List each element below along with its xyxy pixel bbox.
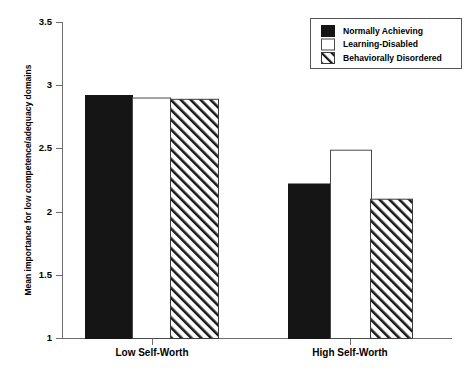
bar-group-low-self-worth — [86, 96, 219, 339]
legend-label-learning-disabled: Learning-Disabled — [343, 39, 418, 49]
y-tick-label-3: 3 — [47, 79, 52, 90]
x-category-label-high-self-worth: High Self-Worth — [312, 347, 387, 358]
x-category-label-low-self-worth: Low Self-Worth — [115, 347, 188, 358]
legend-swatch-learning-disabled — [322, 39, 335, 50]
bar-high-normally-achieving — [289, 184, 331, 339]
chart-container: 1 1.5 2 2.5 3 3.5 Mean importance for lo… — [0, 0, 468, 372]
bar-low-behaviorally-disordered — [171, 99, 219, 338]
legend-swatch-behaviorally-disordered — [322, 53, 335, 64]
chart-legend: Normally Achieving Learning-Disabled Beh… — [311, 19, 462, 69]
legend-label-normally-achieving: Normally Achieving — [343, 26, 423, 36]
legend-swatch-normally-achieving — [322, 26, 335, 37]
y-tick-label-2-5: 2.5 — [39, 142, 53, 153]
y-tick-label-1-5: 1.5 — [39, 269, 53, 280]
bar-high-learning-disabled — [331, 150, 372, 338]
legend-label-behaviorally-disordered: Behaviorally Disordered — [343, 53, 442, 63]
y-tick-label-3-5: 3.5 — [39, 16, 53, 27]
bar-low-learning-disabled — [133, 98, 171, 339]
bar-high-behaviorally-disordered — [371, 199, 413, 338]
bar-low-normally-achieving — [86, 96, 133, 339]
y-tick-label-2: 2 — [47, 206, 52, 217]
bar-chart: 1 1.5 2 2.5 3 3.5 Mean importance for lo… — [0, 0, 468, 372]
y-axis-title: Mean importance for low competence/adequ… — [23, 64, 33, 295]
y-tick-label-1: 1 — [47, 332, 53, 343]
